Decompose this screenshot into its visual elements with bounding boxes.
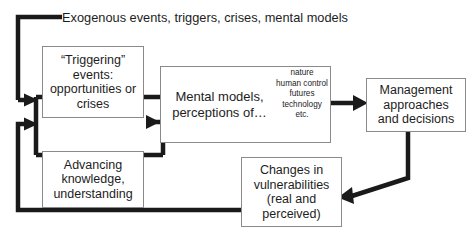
mental-models-aspects-list: nature human control futures technology …	[271, 68, 333, 121]
exogenous-events-label: Exogenous events, triggers, crises, ment…	[62, 10, 348, 25]
node-triggering-events[interactable]: “Triggering” events: opportunities or cr…	[42, 46, 144, 118]
node-changes-in-vulnerabilities-label: Changes in vulnerabilities (real and per…	[242, 163, 341, 221]
node-management-approaches-label: Management approaches and decisions	[367, 83, 465, 127]
management-to-changes-line	[352, 132, 408, 196]
node-management-approaches[interactable]: Management approaches and decisions	[366, 78, 466, 132]
node-mental-models[interactable]: Mental models, perceptions of… nature hu…	[160, 66, 331, 143]
node-advancing-knowledge[interactable]: Advancing knowledge, understanding	[42, 151, 144, 208]
node-triggering-events-label: “Triggering” events: opportunities or cr…	[43, 53, 143, 111]
node-mental-models-label: Mental models, perceptions of…	[167, 89, 272, 119]
process-flow-diagram: Exogenous events, triggers, crises, ment…	[0, 0, 474, 233]
node-advancing-knowledge-label: Advancing knowledge, understanding	[43, 158, 143, 202]
arrowhead-into-mental-models	[146, 115, 160, 129]
node-changes-in-vulnerabilities[interactable]: Changes in vulnerabilities (real and per…	[241, 157, 342, 227]
